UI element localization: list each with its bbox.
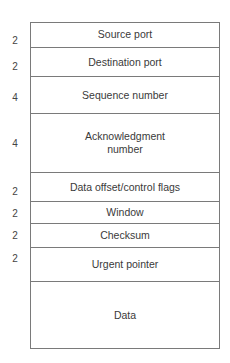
size-label-window: 2 [8,208,22,219]
field-label: Data offset/control flags [70,181,180,194]
size-label-checksum: 2 [8,230,22,241]
field-urgent-pointer: Urgent pointer [30,247,220,281]
field-label: Data [114,309,136,322]
field-label: Destination port [88,56,162,69]
field-label: Checksum [100,229,150,242]
field-label-line2: number [107,143,143,156]
field-sequence-number: Sequence number [30,76,220,113]
field-acknowledgment-number: Acknowledgment number [30,113,220,172]
size-label-acknowledgment-number: 4 [8,138,22,149]
size-label-source-port: 2 [8,35,22,46]
field-checksum: Checksum [30,223,220,247]
tcp-header-diagram: Source port Destination port Sequence nu… [0,0,230,363]
field-window: Window [30,201,220,223]
size-label-data-offset: 2 [8,186,22,197]
field-label: Urgent pointer [92,258,159,271]
field-label-line1: Acknowledgment [85,130,165,143]
field-label: Window [106,206,143,219]
size-label-urgent-pointer: 2 [8,253,22,264]
size-label-sequence-number: 4 [8,92,22,103]
field-data: Data [30,281,220,349]
field-label: Sequence number [82,89,168,102]
size-label-destination-port: 2 [8,61,22,72]
field-data-offset-control-flags: Data offset/control flags [30,172,220,201]
field-destination-port: Destination port [30,47,220,76]
field-label: Source port [98,28,152,41]
field-source-port: Source port [30,22,220,47]
